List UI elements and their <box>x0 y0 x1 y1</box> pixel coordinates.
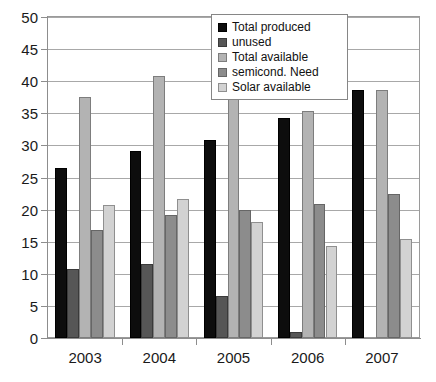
legend-item[interactable]: Total produced <box>218 20 342 34</box>
legend-item-label: Solar available <box>232 81 311 93</box>
bar <box>314 204 326 338</box>
y-axis-tick-label: 10 <box>2 266 38 281</box>
y-axis-tick <box>41 242 47 243</box>
legend-item-label: unused <box>232 36 271 48</box>
legend-item[interactable]: semicond. Need <box>218 65 342 79</box>
legend-swatch-icon <box>218 68 227 77</box>
bar <box>204 140 216 338</box>
chart-legend: Total producedunusedTotal availablesemic… <box>211 14 348 100</box>
x-axis-tick-label: 2006 <box>291 350 324 365</box>
bar <box>130 151 142 338</box>
legend-swatch-icon <box>218 38 227 47</box>
bar <box>91 230 103 338</box>
y-axis-tick <box>41 17 47 18</box>
x-axis-tick <box>345 338 346 345</box>
bar-chart: 05101520253035404550 2003200420052006200… <box>0 0 436 382</box>
x-axis-tick-label: 2003 <box>68 350 101 365</box>
bar <box>376 90 388 338</box>
y-axis-tick-label: 45 <box>2 42 38 57</box>
y-axis-tick <box>41 81 47 82</box>
bar <box>55 168 67 338</box>
bar <box>216 296 228 338</box>
bar <box>388 194 400 338</box>
y-axis-tick-label: 20 <box>2 202 38 217</box>
y-axis-tick-labels: 05101520253035404550 <box>0 0 38 382</box>
bar <box>177 199 189 338</box>
legend-item[interactable]: unused <box>218 35 342 49</box>
bar <box>290 332 302 338</box>
x-axis-tick <box>271 338 272 345</box>
y-axis-tick-label: 0 <box>2 331 38 346</box>
legend-swatch-icon <box>218 23 227 32</box>
bar <box>67 269 79 338</box>
y-axis-tick <box>41 113 47 114</box>
bar <box>251 222 263 338</box>
bar <box>400 239 412 338</box>
bar <box>141 264 153 338</box>
legend-item-label: semicond. Need <box>232 66 319 78</box>
legend-item-label: Total produced <box>232 21 311 33</box>
y-axis-tick-label: 25 <box>2 170 38 185</box>
bar <box>103 205 115 338</box>
bar <box>352 90 364 338</box>
bar <box>239 210 251 338</box>
y-axis-tick-label: 35 <box>2 106 38 121</box>
y-axis-tick-label: 50 <box>2 10 38 25</box>
y-axis-tick <box>41 210 47 211</box>
x-axis-tick-label: 2007 <box>365 350 398 365</box>
y-axis-tick-label: 5 <box>2 298 38 313</box>
legend-item-label: Total available <box>232 51 308 63</box>
x-axis-tick-label: 2005 <box>217 350 250 365</box>
x-axis-tick <box>196 338 197 345</box>
bar <box>278 118 290 338</box>
y-axis-tick <box>41 306 47 307</box>
y-axis-tick <box>41 178 47 179</box>
legend-item[interactable]: Total available <box>218 50 342 64</box>
y-axis-tick <box>41 145 47 146</box>
y-axis-tick-label: 30 <box>2 138 38 153</box>
y-axis-tick <box>41 49 47 50</box>
y-axis-tick-label: 40 <box>2 74 38 89</box>
bar <box>79 97 91 338</box>
bar <box>165 215 177 338</box>
y-axis-tick <box>41 274 47 275</box>
legend-swatch-icon <box>218 53 227 62</box>
bar <box>302 111 314 338</box>
legend-item[interactable]: Solar available <box>218 80 342 94</box>
y-axis-tick-label: 15 <box>2 234 38 249</box>
x-axis-tick-label: 2004 <box>143 350 176 365</box>
bar <box>326 246 338 338</box>
x-axis-line <box>47 338 421 339</box>
legend-swatch-icon <box>218 83 227 92</box>
x-axis-tick <box>122 338 123 345</box>
bar <box>153 76 165 338</box>
